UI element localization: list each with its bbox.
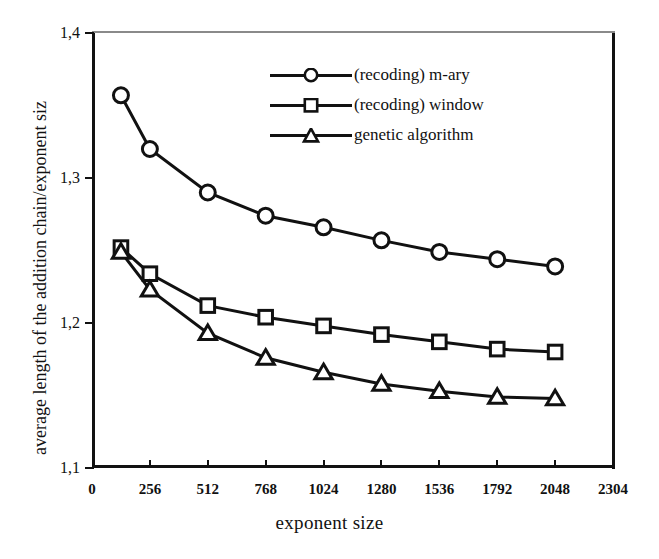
data-point-triangle (315, 364, 332, 379)
legend-swatch-circle (268, 62, 354, 88)
data-point-square (375, 328, 389, 342)
data-point-square (548, 345, 562, 359)
triangle-marker-icon (301, 128, 321, 148)
legend-item-m-ary[interactable]: (recoding) m-ary (268, 60, 568, 90)
data-point-square (259, 310, 273, 324)
data-point-circle (548, 259, 563, 274)
data-point-triangle (431, 383, 448, 398)
legend-label-genetic: genetic algorithm (354, 125, 473, 145)
square-marker-icon (301, 98, 321, 118)
data-point-square (490, 342, 504, 356)
data-point-square (317, 319, 331, 333)
chart-figure: 1,11,21,31,4 025651276810241280153617922… (0, 0, 659, 559)
x-axis-title: exponent size (0, 512, 659, 534)
legend: (recoding) m-ary (recoding) window genet… (268, 60, 568, 150)
circle-marker-icon (301, 68, 321, 88)
legend-item-window[interactable]: (recoding) window (268, 90, 568, 120)
legend-item-genetic[interactable]: genetic algorithm (268, 120, 568, 150)
data-point-triangle (257, 350, 274, 365)
legend-label-window: (recoding) window (354, 95, 484, 115)
legend-swatch-triangle (268, 122, 354, 148)
data-point-square (201, 299, 215, 313)
data-point-circle (113, 88, 128, 103)
legend-label-m-ary: (recoding) m-ary (354, 65, 470, 85)
data-point-square (143, 267, 157, 281)
data-point-triangle (489, 389, 506, 404)
data-point-circle (432, 244, 447, 259)
data-point-circle (142, 142, 157, 157)
data-point-square (433, 335, 447, 349)
data-point-circle (258, 208, 273, 223)
data-point-triangle (547, 390, 564, 405)
data-point-triangle (373, 376, 390, 391)
data-point-circle (490, 252, 505, 267)
data-point-circle (374, 233, 389, 248)
data-point-circle (200, 185, 215, 200)
series-line (121, 252, 555, 399)
legend-swatch-square (268, 92, 354, 118)
y-axis-title: average length of the addition chain/exp… (30, 101, 51, 455)
data-point-circle (316, 220, 331, 235)
